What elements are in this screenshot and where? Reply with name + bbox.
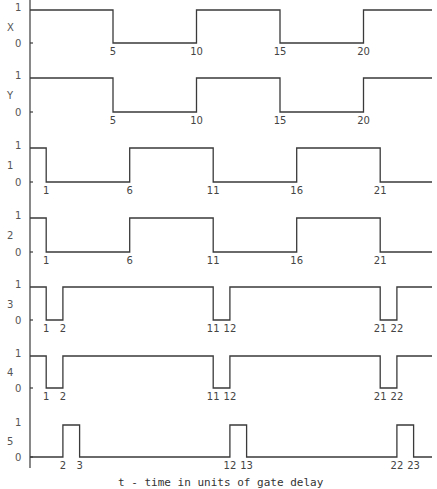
time-label: 10 bbox=[190, 115, 203, 126]
time-label: 1 bbox=[43, 323, 49, 334]
waveform bbox=[30, 425, 432, 457]
time-label: 23 bbox=[407, 460, 420, 471]
time-label: 11 bbox=[207, 391, 220, 402]
waveform bbox=[30, 218, 432, 252]
time-label: 6 bbox=[127, 185, 133, 196]
time-label: 21 bbox=[374, 255, 387, 266]
waveform bbox=[30, 356, 432, 388]
signal-label: 1 bbox=[7, 160, 13, 171]
level-1-label: 1 bbox=[15, 2, 21, 13]
time-label: 13 bbox=[240, 460, 253, 471]
time-label: 21 bbox=[374, 323, 387, 334]
time-label: 2 bbox=[60, 460, 66, 471]
time-label: 15 bbox=[274, 46, 287, 57]
signal-label: 4 bbox=[7, 367, 13, 378]
level-0-label: 0 bbox=[15, 315, 21, 326]
time-label: 16 bbox=[290, 185, 303, 196]
time-label: 20 bbox=[357, 46, 370, 57]
level-1-label: 1 bbox=[15, 70, 21, 81]
signal-row-3: 3101211122122 bbox=[7, 279, 432, 334]
level-1-label: 1 bbox=[15, 140, 21, 151]
signal-row-1: 11016111621 bbox=[7, 140, 432, 196]
x-axis-caption: t - time in units of gate delay bbox=[118, 476, 323, 489]
time-label: 6 bbox=[127, 255, 133, 266]
time-label: 5 bbox=[110, 115, 116, 126]
time-label: 22 bbox=[391, 323, 404, 334]
time-label: 22 bbox=[391, 391, 404, 402]
time-label: 20 bbox=[357, 115, 370, 126]
time-label: 16 bbox=[290, 255, 303, 266]
signal-row-2: 21016111621 bbox=[7, 210, 432, 266]
level-1-label: 1 bbox=[15, 210, 21, 221]
time-label: 11 bbox=[207, 185, 220, 196]
time-label: 12 bbox=[224, 323, 237, 334]
signal-rows: X105101520Y10510152011016111621210161116… bbox=[6, 2, 432, 471]
level-1-label: 1 bbox=[15, 417, 21, 428]
time-label: 1 bbox=[43, 255, 49, 266]
signal-row-x: X105101520 bbox=[7, 2, 432, 57]
signal-row-5: 5102312132223 bbox=[7, 417, 432, 471]
time-label: 21 bbox=[374, 185, 387, 196]
level-0-label: 0 bbox=[15, 383, 21, 394]
signal-label: 3 bbox=[7, 299, 13, 310]
signal-row-4: 4101211122122 bbox=[7, 348, 432, 402]
signal-label: Y bbox=[6, 90, 14, 101]
time-label: 21 bbox=[374, 391, 387, 402]
time-label: 1 bbox=[43, 185, 49, 196]
level-0-label: 0 bbox=[15, 107, 21, 118]
level-0-label: 0 bbox=[15, 452, 21, 463]
time-label: 10 bbox=[190, 46, 203, 57]
time-label: 15 bbox=[274, 115, 287, 126]
level-0-label: 0 bbox=[15, 177, 21, 188]
time-label: 2 bbox=[60, 391, 66, 402]
time-label: 12 bbox=[224, 391, 237, 402]
level-1-label: 1 bbox=[15, 348, 21, 359]
signal-label: 2 bbox=[7, 230, 13, 241]
level-0-label: 0 bbox=[15, 247, 21, 258]
time-label: 5 bbox=[110, 46, 116, 57]
signal-row-y: Y105101520 bbox=[6, 70, 432, 126]
time-label: 1 bbox=[43, 391, 49, 402]
time-label: 11 bbox=[207, 255, 220, 266]
time-label: 3 bbox=[76, 460, 82, 471]
signal-label: X bbox=[7, 22, 14, 33]
waveform bbox=[30, 78, 432, 112]
signal-label: 5 bbox=[7, 436, 13, 447]
waveform bbox=[30, 10, 432, 43]
level-1-label: 1 bbox=[15, 279, 21, 290]
time-label: 11 bbox=[207, 323, 220, 334]
time-label: 22 bbox=[391, 460, 404, 471]
level-0-label: 0 bbox=[15, 38, 21, 49]
time-label: 2 bbox=[60, 323, 66, 334]
waveform bbox=[30, 148, 432, 182]
waveform bbox=[30, 287, 432, 320]
time-label: 12 bbox=[224, 460, 237, 471]
